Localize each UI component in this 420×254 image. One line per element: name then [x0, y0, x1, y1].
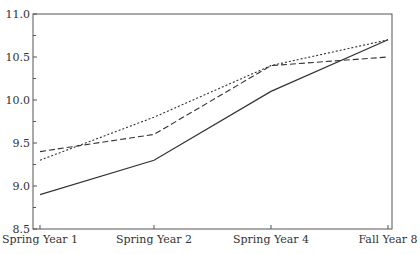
plot-frame	[33, 14, 392, 229]
series-line-dashed	[40, 57, 388, 152]
y-axis: 8.59.09.510.010.511.0	[6, 8, 38, 236]
y-tick-label: 10.0	[6, 94, 31, 107]
y-tick-label: 9.5	[13, 137, 31, 150]
chart-canvas: 8.59.09.510.010.511.0 Spring Year 1Sprin…	[0, 0, 420, 254]
y-tick-label: 10.5	[6, 51, 31, 64]
x-tick-label: Fall Year 8	[358, 233, 417, 246]
x-tick-label: Spring Year 2	[116, 233, 192, 246]
y-tick-label: 9.0	[13, 180, 31, 193]
series-line-dotted	[40, 40, 388, 160]
x-tick-label: Spring Year 1	[2, 233, 78, 246]
series-lines	[40, 40, 388, 195]
x-tick-label: Spring Year 4	[233, 233, 309, 246]
series-line-solid	[40, 40, 388, 195]
line-chart: 8.59.09.510.010.511.0 Spring Year 1Sprin…	[0, 0, 420, 254]
x-axis: Spring Year 1Spring Year 2Spring Year 4F…	[2, 225, 418, 246]
y-tick-label: 11.0	[6, 8, 31, 21]
